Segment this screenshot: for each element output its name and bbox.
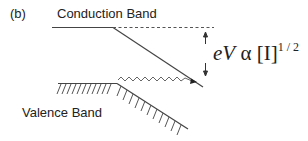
photon-zigzag-arrow [118, 77, 197, 84]
band-bending-diagram: (b) Conduction Band Valence Band eV α [I… [0, 0, 308, 141]
valence-band-line [58, 84, 188, 130]
valence-band-hatching [57, 84, 181, 135]
band-lines [0, 0, 308, 141]
band-bending-arrows [204, 32, 208, 76]
